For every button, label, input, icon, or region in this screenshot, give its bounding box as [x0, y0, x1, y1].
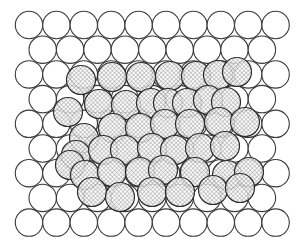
grid-circle [235, 11, 262, 38]
grid-circle [70, 209, 97, 236]
hatched-circle [54, 98, 83, 127]
hatched-circle [78, 178, 107, 207]
grid-circle [56, 36, 83, 63]
hatched-circle [138, 178, 167, 207]
grid-circle [139, 36, 166, 63]
hatched-circle [67, 66, 96, 95]
hatched-circle [211, 132, 240, 161]
grid-circle [111, 36, 138, 63]
hatched-circle [199, 176, 228, 205]
grid-circle [262, 110, 289, 137]
grid-circle [262, 11, 289, 38]
hatched-circle [106, 183, 135, 212]
grid-circle [43, 11, 70, 38]
hatched-circle [166, 178, 195, 207]
grid-circle [166, 36, 193, 63]
grid-circle [180, 209, 207, 236]
hatched-circle [156, 62, 185, 91]
grid-circle [262, 61, 289, 88]
grid-circle [207, 11, 234, 38]
grid-circle [152, 209, 179, 236]
grid-circle [29, 85, 56, 112]
grid-circle [98, 11, 125, 38]
hatched-circle [226, 174, 255, 203]
grid-circle [29, 36, 56, 63]
grid-circle [29, 135, 56, 162]
hatched-circle [231, 108, 260, 137]
grid-circle [262, 209, 289, 236]
grid-circle [15, 110, 42, 137]
grid-circle [15, 160, 42, 187]
hatched-circle [223, 58, 252, 87]
hatched-circle [127, 63, 156, 92]
grid-circle [43, 61, 70, 88]
grid-circle [70, 11, 97, 38]
grid-circle [29, 184, 56, 211]
hatched-circle-cluster [54, 58, 264, 212]
grid-circle [248, 85, 275, 112]
grid-circle [125, 209, 152, 236]
grid-circle [125, 11, 152, 38]
grid-circle [180, 11, 207, 38]
grid-circle [84, 36, 111, 63]
grid-circle [193, 36, 220, 63]
grid-circle [15, 61, 42, 88]
grid-circle [43, 209, 70, 236]
grid-circle [15, 209, 42, 236]
grid-circle [15, 11, 42, 38]
hatched-circle [98, 63, 127, 92]
grid-circle [152, 11, 179, 38]
grid-circle [248, 36, 275, 63]
circle-packing-diagram [0, 0, 304, 248]
grid-circle [262, 160, 289, 187]
grid-circle [235, 209, 262, 236]
grid-circle [207, 209, 234, 236]
grid-circle [98, 209, 125, 236]
